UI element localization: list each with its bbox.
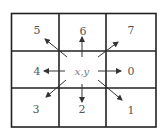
direction-label-7: 7 xyxy=(128,24,135,37)
direction-label-6: 6 xyxy=(80,25,87,38)
center-pixel-label: x,y xyxy=(75,66,90,77)
chain-code-diagram: 0 1 2 3 4 5 6 7 x,y xyxy=(0,0,165,137)
direction-label-5: 5 xyxy=(34,24,41,37)
direction-label-3: 3 xyxy=(33,103,40,116)
arrow-northwest-icon xyxy=(45,39,67,57)
arrow-southeast-icon xyxy=(98,80,122,100)
direction-label-2: 2 xyxy=(79,103,86,116)
direction-label-1: 1 xyxy=(128,104,135,117)
direction-label-0: 0 xyxy=(128,65,135,78)
arrow-northeast-icon xyxy=(98,42,118,57)
direction-label-4: 4 xyxy=(34,65,41,78)
